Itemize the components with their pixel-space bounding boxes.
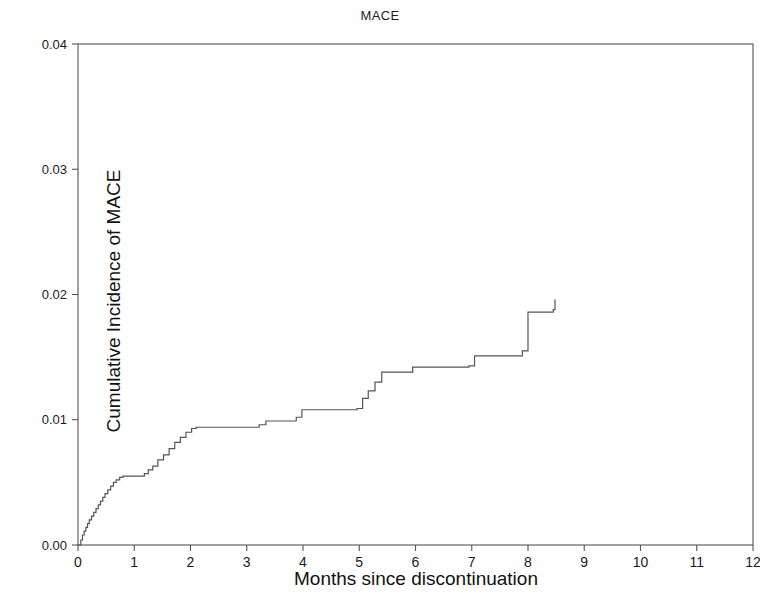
y-axis-ticks: 0.000.010.020.030.04 [42, 37, 78, 553]
x-axis-ticks: 0123456789101112 [74, 545, 760, 570]
x-tick-label: 0 [74, 554, 82, 570]
y-tick-label: 0.02 [42, 287, 67, 302]
x-tick-label: 4 [299, 554, 307, 570]
step-curve-path [78, 300, 555, 545]
x-tick-label: 2 [187, 554, 195, 570]
y-tick-label: 0.01 [42, 412, 67, 427]
plot-area: 0.000.010.020.030.04 0123456789101112 [0, 0, 760, 597]
y-tick-label: 0.03 [42, 162, 67, 177]
x-tick-label: 3 [243, 554, 251, 570]
x-tick-label: 6 [412, 554, 420, 570]
plot-frame [78, 44, 753, 545]
x-tick-label: 12 [745, 554, 760, 570]
x-tick-label: 8 [524, 554, 532, 570]
x-tick-label: 1 [130, 554, 138, 570]
y-tick-label: 0.04 [42, 37, 67, 52]
plot-frame-rect [78, 44, 753, 545]
x-tick-label: 11 [689, 554, 704, 570]
x-tick-label: 10 [633, 554, 649, 570]
x-tick-label: 9 [580, 554, 588, 570]
data-series-step-curve [78, 300, 555, 545]
x-tick-label: 7 [468, 554, 476, 570]
chart-figure: MACE Cumulative Incidence of MACE Months… [0, 0, 760, 597]
x-tick-label: 5 [355, 554, 363, 570]
y-tick-label: 0.00 [42, 538, 67, 553]
